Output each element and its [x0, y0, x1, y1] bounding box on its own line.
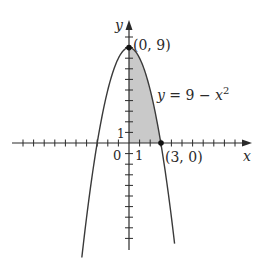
y-axis-arrow-icon — [126, 20, 133, 30]
vertex-point — [126, 45, 132, 51]
origin-label: 0 — [113, 148, 121, 163]
x-axis-arrow-icon — [242, 140, 252, 147]
equation-exponent: 2 — [223, 85, 229, 96]
x-tick-one-label: 1 — [135, 148, 143, 163]
x-intercept-point — [158, 140, 164, 146]
equation-label: y = 9 − x2 — [156, 85, 229, 103]
x-axis-label: x — [243, 148, 251, 164]
intercept-label: (3, 0) — [165, 149, 203, 165]
parabola-figure: y x 0 1 1 (0, 9) (3, 0) y = 9 − x2 — [0, 0, 266, 261]
vertex-label: (0, 9) — [133, 37, 171, 53]
y-axis-label: y — [114, 17, 124, 33]
y-tick-one-label: 1 — [117, 127, 125, 141]
graph-canvas: y x 0 1 1 (0, 9) (3, 0) y = 9 − x2 — [0, 0, 266, 261]
equation-var: x — [215, 87, 223, 103]
equation-rhs: = 9 − — [165, 87, 215, 103]
